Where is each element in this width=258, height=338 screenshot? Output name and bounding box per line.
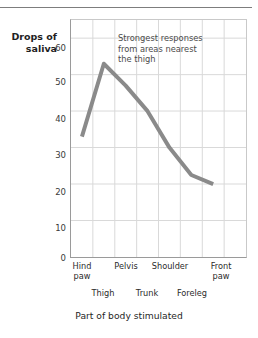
series-polyline — [82, 64, 213, 184]
chart-annotation-line-2: from areas nearest — [118, 44, 238, 55]
y-tick-label-60: 60 — [50, 44, 66, 53]
y-axis-title: Drops of saliva — [2, 31, 57, 54]
x-tick-front-paw-line-2: paw — [198, 272, 244, 282]
x-tick-pelvis-line-1: Pelvis — [103, 262, 149, 272]
x-tick-pelvis: Pelvis — [103, 262, 149, 272]
x-tick-foreleg: Foreleg — [168, 289, 216, 299]
y-tick-label-10: 10 — [50, 224, 66, 233]
chart-annotation-line-1: Strongest responses — [118, 33, 238, 44]
saliva-response-line-chart: Drops of saliva 60 50 40 30 20 10 0 — [0, 0, 258, 338]
y-tick-label-40: 40 — [50, 115, 66, 124]
x-tick-thigh: Thigh — [81, 289, 125, 299]
x-tick-shoulder-line-1: Shoulder — [145, 262, 195, 272]
x-tick-trunk: Trunk — [125, 289, 169, 299]
x-axis-title: Part of body stimulated — [0, 310, 258, 321]
x-tick-hind-paw-line-2: paw — [59, 272, 105, 282]
x-tick-front-paw: Front paw — [198, 262, 244, 281]
chart-annotation-line-3: the thigh — [118, 54, 238, 65]
y-tick-label-50: 50 — [50, 78, 66, 87]
y-tick-label-20: 20 — [50, 188, 66, 197]
x-tick-shoulder: Shoulder — [145, 262, 195, 272]
header-divider — [0, 7, 252, 8]
y-axis-title-line-1: Drops of — [2, 31, 57, 43]
y-axis-title-line-2: saliva — [2, 43, 57, 55]
y-tick-label-30: 30 — [50, 151, 66, 160]
x-tick-hind-paw: Hind paw — [59, 262, 105, 281]
chart-annotation: Strongest responses from areas nearest t… — [118, 33, 238, 65]
